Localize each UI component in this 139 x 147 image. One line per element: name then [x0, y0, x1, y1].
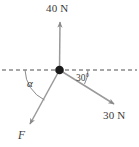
force-vector-f — [30, 70, 60, 124]
force-label-40n: 40 N — [46, 3, 69, 14]
angle-label-30-degrees: 30° — [76, 74, 89, 84]
force-label-f: F — [18, 130, 25, 142]
origin-point — [55, 66, 64, 75]
force-diagram-figure: 40 N 30 N F 30° α — [0, 0, 139, 147]
force-diagram-canvas — [0, 0, 139, 147]
angle-label-alpha: α — [27, 78, 33, 89]
force-vector-40n — [60, 22, 61, 70]
force-label-30n: 30 N — [103, 110, 126, 121]
